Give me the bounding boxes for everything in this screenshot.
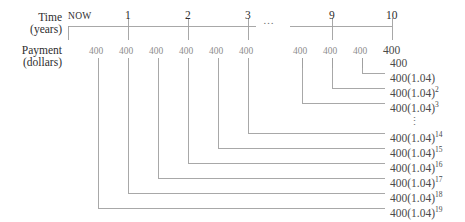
timeline-tick-label-3: 3 — [245, 10, 251, 22]
time-axis-label: Time (years) — [2, 12, 62, 35]
leader-term-9 — [128, 68, 385, 193]
payment-amount-final: 400 — [383, 45, 400, 57]
timeline-tick-label-10: 10 — [386, 10, 398, 22]
term-1: 400(1.04) — [390, 73, 435, 85]
timeline-tick-label-1: 1 — [125, 10, 131, 22]
payment-amount: 400 — [239, 47, 253, 57]
payment-amount: 400 — [149, 47, 163, 57]
leader-term-8 — [158, 68, 385, 178]
term-0: 400 — [390, 58, 407, 70]
timeline-break-ellipsis: … — [263, 15, 275, 26]
term-8: 400(1.04)18 — [390, 193, 443, 205]
term-7: 400(1.04)17 — [390, 178, 443, 190]
term-9: 400(1.04)19 — [390, 208, 443, 220]
leader-term-2 — [362, 58, 385, 73]
payment-amount: 400 — [293, 47, 307, 57]
term-2: 400(1.04)2 — [390, 88, 439, 100]
term-vertical-ellipsis: ⋮ — [409, 116, 420, 127]
payment-amount: 400 — [89, 47, 103, 57]
term-3: 400(1.04)3 — [390, 103, 439, 115]
payment-amount: 400 — [323, 47, 337, 57]
leader-term-6 — [218, 68, 385, 148]
annuity-timeline-figure: Time (years) Payment (dollars) NOW 1 2 3… — [0, 0, 465, 222]
leader-term-5 — [248, 68, 385, 133]
term-6: 400(1.04)16 — [390, 163, 443, 175]
term-4: 400(1.04)14 — [390, 133, 443, 145]
timeline-tick-label-9: 9 — [329, 10, 335, 22]
payment-amount: 400 — [119, 47, 133, 57]
payment-amount: 400 — [353, 47, 367, 57]
leader-term-10 — [98, 68, 385, 208]
payment-amount: 400 — [209, 47, 223, 57]
timeline-now-label: NOW — [68, 12, 92, 22]
timeline-tick-label-2: 2 — [185, 10, 191, 22]
payment-amount: 400 — [179, 47, 193, 57]
term-5: 400(1.04)15 — [390, 148, 443, 160]
leader-term-4 — [302, 58, 385, 103]
payment-axis-label: Payment (dollars) — [2, 45, 62, 68]
